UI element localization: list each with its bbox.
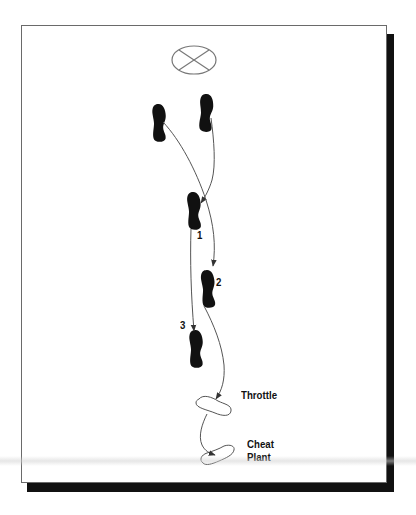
step3-label: 3 <box>180 319 185 332</box>
cheat-plant-footprint-outline-icon <box>201 445 234 464</box>
step2-label: 2 <box>216 276 221 289</box>
step1-label: 1 <box>197 229 202 242</box>
cheat-plant-label-line1: Cheat <box>247 438 274 451</box>
throttle-footprint-outline-icon <box>196 396 231 415</box>
step1-footprint-icon <box>187 192 202 231</box>
step2-footprint-icon <box>200 270 216 309</box>
throttle-label: Throttle <box>241 389 277 402</box>
path-step2-to-throttle <box>204 306 224 399</box>
right-foot-start-icon <box>199 94 214 132</box>
target-icon <box>172 46 216 74</box>
step3-footprint-icon <box>189 330 204 368</box>
path-throttle-to-cheat <box>200 414 215 455</box>
diagram-stage: 1 2 3 Throttle Cheat Plant <box>0 0 416 515</box>
footwork-drawing <box>0 0 416 515</box>
cheat-plant-label-line2: Plant <box>247 451 271 464</box>
path-step1-to-step3 <box>191 229 194 331</box>
